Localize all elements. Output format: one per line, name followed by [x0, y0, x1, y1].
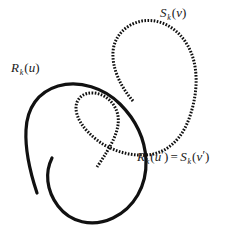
- label-intersection-point: Rk(u′)=Sk(v′): [137, 150, 209, 166]
- label-r-close-paren: ): [35, 60, 39, 75]
- label-s-curve: Sk(v): [160, 6, 186, 22]
- curve-intersection-diagram: Sk(v) Rk(u) Rk(u′)=Sk(v′): [0, 0, 240, 234]
- label-int-left-base: R: [137, 149, 145, 164]
- label-r-curve: Rk(u): [11, 61, 39, 77]
- label-int-right-base: S: [180, 149, 187, 164]
- label-s-base: S: [160, 5, 167, 20]
- label-s-close-paren: ): [182, 5, 186, 20]
- label-int-right-close-paren: ): [205, 149, 209, 164]
- label-int-equals: =: [168, 149, 180, 164]
- label-r-base: R: [11, 60, 19, 75]
- diagram-canvas: [0, 0, 240, 234]
